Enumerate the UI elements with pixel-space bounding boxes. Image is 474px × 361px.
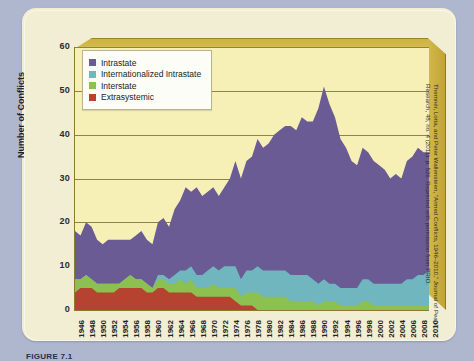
- figure-caption: FIGURE 7.1: [26, 352, 73, 361]
- x-tick-label-1978: 1978: [254, 320, 263, 338]
- x-tick-label-1954: 1954: [121, 320, 130, 338]
- x-tick-label-1998: 1998: [365, 320, 374, 338]
- y-tick-label-60: 60: [44, 41, 70, 51]
- y-tick-label-10: 10: [44, 260, 70, 270]
- legend-item-internationalized-intrastate: Internationalized Intrastate: [89, 69, 201, 79]
- figure-card: Number of Conflicts 0102030405060 194619…: [22, 8, 456, 341]
- source-citation: Themnér, Lotta, and Peter Wallensteen, "…: [425, 84, 440, 334]
- x-tick-label-1956: 1956: [132, 320, 141, 338]
- legend-item-intrastate: Intrastate: [89, 58, 201, 68]
- legend-item-label: Internationalized Intrastate: [101, 69, 201, 79]
- x-tick-label-1982: 1982: [276, 320, 285, 338]
- x-tick-label-1980: 1980: [265, 320, 274, 338]
- chart-legend: IntrastateInternationalized IntrastateIn…: [82, 50, 212, 110]
- x-tick-label-1968: 1968: [199, 320, 208, 338]
- x-tick-label-1966: 1966: [188, 320, 197, 338]
- x-tick-label-1946: 1946: [77, 320, 86, 338]
- x-tick-label-1960: 1960: [154, 320, 163, 338]
- x-tick-label-1950: 1950: [99, 320, 108, 338]
- x-tick-label-1986: 1986: [298, 320, 307, 338]
- y-tick-label-30: 30: [44, 173, 70, 183]
- legend-item-label: Intrastate: [101, 58, 136, 68]
- x-tick-label-2004: 2004: [398, 320, 407, 338]
- x-tick-label-2002: 2002: [387, 320, 396, 338]
- figure-root: Number of Conflicts 0102030405060 194619…: [0, 0, 474, 361]
- legend-swatch-icon: [89, 94, 96, 101]
- x-tick-label-1964: 1964: [177, 320, 186, 338]
- x-tick-label-1962: 1962: [166, 320, 175, 338]
- legend-item-extrasystemic: Extrasystemic: [89, 92, 201, 102]
- y-axis-ticks: 0102030405060: [42, 47, 70, 310]
- x-tick-label-1972: 1972: [221, 320, 230, 338]
- x-tick-label-1974: 1974: [232, 320, 241, 338]
- x-tick-label-1988: 1988: [309, 320, 318, 338]
- legend-swatch-icon: [89, 59, 96, 66]
- y-axis-label: Number of Conflicts: [16, 72, 26, 158]
- x-tick-label-1984: 1984: [287, 320, 296, 338]
- y-tick-label-20: 20: [44, 216, 70, 226]
- y-tick-label-40: 40: [44, 129, 70, 139]
- x-tick-label-1990: 1990: [320, 320, 329, 338]
- x-tick-label-1952: 1952: [110, 320, 119, 338]
- x-tick-label-1958: 1958: [143, 320, 152, 338]
- y-tick-label-0: 0: [44, 304, 70, 314]
- x-tick-label-1994: 1994: [343, 320, 352, 338]
- legend-swatch-icon: [89, 71, 96, 78]
- legend-item-label: Interstate: [101, 81, 136, 91]
- x-tick-label-2000: 2000: [376, 320, 385, 338]
- legend-item-label: Extrasystemic: [101, 92, 154, 102]
- x-axis-ticks: 1946194819501952195419561958196019621964…: [74, 320, 446, 361]
- x-tick-label-1996: 1996: [354, 320, 363, 338]
- legend-swatch-icon: [89, 82, 96, 89]
- x-tick-label-1976: 1976: [243, 320, 252, 338]
- x-tick-label-2006: 2006: [409, 320, 418, 338]
- x-tick-label-1970: 1970: [210, 320, 219, 338]
- x-tick-label-1992: 1992: [331, 320, 340, 338]
- x-tick-label-1948: 1948: [88, 320, 97, 338]
- y-tick-label-50: 50: [44, 85, 70, 95]
- legend-item-interstate: Interstate: [89, 81, 201, 91]
